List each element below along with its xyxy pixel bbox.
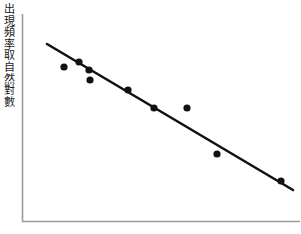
- data-point: [85, 66, 92, 73]
- trendline: [47, 44, 293, 190]
- data-point: [75, 58, 82, 65]
- chart-figure: 出現頻率取自然對數: [0, 0, 301, 234]
- axis-lines: [22, 14, 300, 222]
- data-point: [86, 76, 93, 83]
- scatter-plot-canvas: [0, 0, 301, 234]
- trendline-segment: [47, 44, 293, 190]
- data-point: [150, 104, 157, 111]
- data-point: [60, 63, 67, 70]
- data-point: [213, 150, 220, 157]
- data-point: [183, 104, 190, 111]
- data-point: [124, 86, 131, 93]
- data-point: [277, 177, 284, 184]
